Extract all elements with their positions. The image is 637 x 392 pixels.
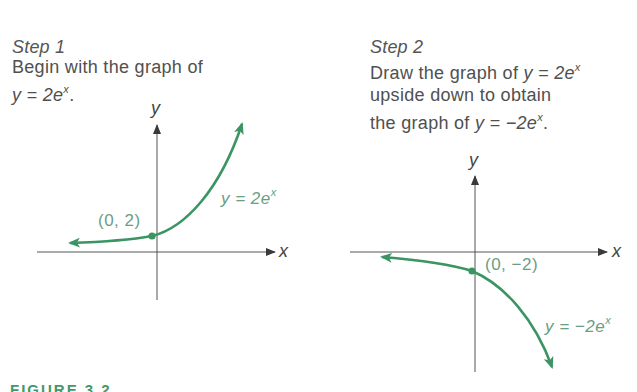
left-y-axis-label: y: [151, 98, 160, 119]
figure-label-clip: FIGURE 3.2: [10, 381, 210, 392]
graphs-canvas: [0, 0, 637, 392]
left-curve-exponent: x: [271, 186, 277, 198]
left-point-0-2: [148, 232, 155, 239]
right-curve-y-neg2ex-right: [472, 271, 552, 367]
right-curve-y-neg2ex-left: [382, 257, 472, 271]
right-y-axis-label: y: [469, 150, 478, 171]
right-x-axis-label: x: [612, 241, 621, 262]
right-curve-label: y = −2ex: [545, 314, 611, 337]
figure-label: FIGURE 3.2: [10, 381, 112, 392]
left-curve-label: y = 2ex: [221, 186, 277, 209]
right-curve-equation: y = −2e: [545, 317, 605, 336]
left-curve-y-2ex-right: [152, 124, 242, 236]
right-curve-exponent: x: [605, 314, 611, 326]
right-point-0-neg2: [468, 267, 475, 274]
left-x-axis-label: x: [279, 241, 288, 262]
left-curve-equation: y = 2e: [221, 189, 271, 208]
left-curve-y-2ex: [70, 236, 152, 243]
left-graph: [37, 124, 275, 300]
right-graph: [350, 176, 607, 372]
right-point-label: (0, −2): [485, 255, 538, 275]
left-point-label: (0, 2): [98, 211, 141, 231]
